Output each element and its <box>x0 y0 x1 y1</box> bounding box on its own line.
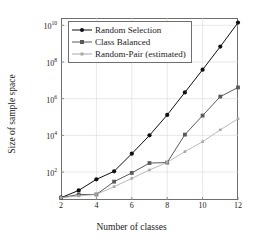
square-marker-icon <box>80 40 84 44</box>
legend-swatch-random-pair <box>72 48 92 60</box>
y-axis-label: Size of sample space <box>7 74 17 153</box>
legend-label-class-balanced: Class Balanced <box>95 37 150 47</box>
x-tick-label: 12 <box>234 202 242 210</box>
legend-item-class-balanced: Class Balanced <box>72 36 186 48</box>
small-square-marker-icon <box>81 53 84 56</box>
x-tick-label: 2 <box>59 202 63 210</box>
legend-item-random-pair: Random-Pair (estimated) <box>72 48 186 60</box>
legend-swatch-class-balanced <box>72 36 92 48</box>
y-axis-label-wrapper: Size of sample space <box>7 39 17 189</box>
legend-label-random-pair: Random-Pair (estimated) <box>95 49 186 59</box>
chart-figure: 1021041061081010 24681012 Number of clas… <box>0 0 263 247</box>
legend-label-random-selection: Random Selection <box>95 25 161 35</box>
circle-marker-icon <box>80 28 84 32</box>
x-tick-label: 8 <box>165 202 169 210</box>
x-tick-label: 10 <box>199 202 207 210</box>
x-tick-label: 6 <box>130 202 134 210</box>
legend-swatch-random-selection <box>72 24 92 36</box>
chart-legend: Random Selection Class Balanced Random-P… <box>68 21 192 63</box>
x-tick-label: 4 <box>94 202 98 210</box>
x-axis-label: Number of classes <box>0 222 263 232</box>
legend-item-random-selection: Random Selection <box>72 24 186 36</box>
